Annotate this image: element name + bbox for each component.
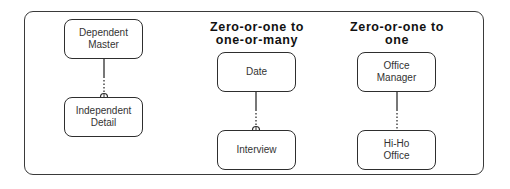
relationship-dependent-master-to-independent-detail	[101, 59, 108, 97]
relationship-date-to-interview	[253, 92, 260, 130]
relationship-lines	[0, 0, 510, 189]
